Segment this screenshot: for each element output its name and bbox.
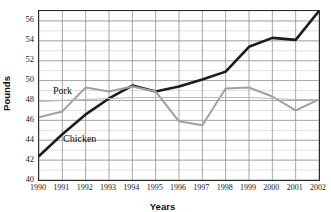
plot-canvas bbox=[39, 11, 319, 180]
x-tick-label: 1991 bbox=[48, 183, 74, 193]
x-tick-label: 1996 bbox=[165, 183, 191, 193]
series-annotation-pork: Pork bbox=[53, 85, 72, 96]
series-annotation-chicken: Chicken bbox=[63, 133, 96, 144]
y-tick-label: 54 bbox=[8, 35, 34, 44]
x-tick-label: 1997 bbox=[188, 183, 214, 193]
y-tick-label: 56 bbox=[8, 15, 34, 24]
major-vertical-gridlines bbox=[39, 11, 319, 180]
x-tick-label: 1998 bbox=[212, 183, 238, 193]
x-tick-label: 1995 bbox=[142, 183, 168, 193]
x-tick-label: 1999 bbox=[235, 183, 261, 193]
chart-title bbox=[0, 0, 325, 1]
plot-area bbox=[38, 10, 320, 181]
x-tick-label: 1992 bbox=[72, 183, 98, 193]
y-tick-label: 44 bbox=[8, 135, 34, 144]
y-tick-label: 46 bbox=[8, 115, 34, 124]
x-tick-label: 2001 bbox=[282, 183, 308, 193]
y-tick-label: 48 bbox=[8, 95, 34, 104]
x-tick-label: 2000 bbox=[258, 183, 284, 193]
x-axis-label: Years bbox=[0, 201, 325, 212]
y-tick-label: 52 bbox=[8, 55, 34, 64]
x-tick-label: 1993 bbox=[95, 183, 121, 193]
x-tick-label: 1994 bbox=[118, 183, 144, 193]
y-tick-label: 50 bbox=[8, 75, 34, 84]
y-tick-label: 42 bbox=[8, 155, 34, 164]
x-tick-label: 1990 bbox=[25, 183, 51, 193]
x-tick-label: 2002 bbox=[305, 183, 331, 193]
